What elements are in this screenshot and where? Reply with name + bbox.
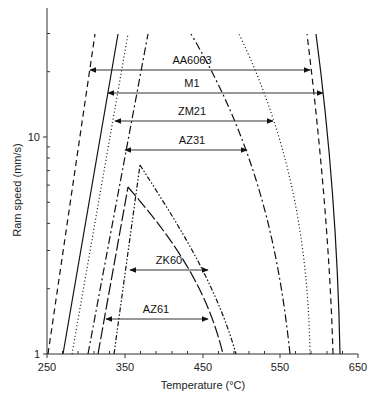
x-tick-label-550: 550 xyxy=(271,361,289,373)
label-m1: M1 xyxy=(184,77,199,89)
x-tick-label-250: 250 xyxy=(38,361,56,373)
curve-aa6063-right xyxy=(307,34,333,354)
y-tick-label-10: 10 xyxy=(28,131,40,143)
extrusion-limit-chart: 1 10 250 350 450 550 650 Temperature (°C… xyxy=(0,0,381,399)
curve-zm21-right xyxy=(239,34,310,354)
x-tick-label-650: 650 xyxy=(349,361,367,373)
curve-zk60-right xyxy=(140,165,236,354)
label-aa6063: AA6063 xyxy=(172,54,211,66)
curve-zm21-left xyxy=(72,34,128,354)
label-zk60: ZK60 xyxy=(156,254,182,266)
x-tick-label-450: 450 xyxy=(194,361,212,373)
x-axis-title: Temperature (°C) xyxy=(161,379,245,391)
y-axis-title: Ram speed (mm/s) xyxy=(11,143,23,237)
label-az31: AZ31 xyxy=(179,134,205,146)
curve-az31-left xyxy=(88,34,148,354)
label-zm21: ZM21 xyxy=(178,105,206,117)
range-arrows xyxy=(90,70,323,319)
label-az61: AZ61 xyxy=(143,303,169,315)
curve-m1-right xyxy=(316,34,340,354)
x-tick-label-350: 350 xyxy=(116,361,134,373)
curve-az61-left xyxy=(98,187,128,354)
curve-az31-right xyxy=(191,34,290,354)
y-tick-label-1: 1 xyxy=(34,348,40,360)
